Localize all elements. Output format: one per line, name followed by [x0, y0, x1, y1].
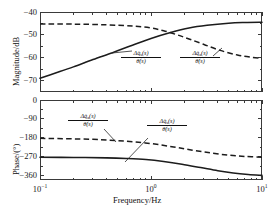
frequency-x-axis-label: Frequency/Hz — [113, 195, 161, 205]
ph-ann2-num-tail: (s) — [168, 117, 175, 124]
ph-ann2-sub: s — [166, 120, 168, 125]
phase-annotation-2: Δq̇s(s) θ̇(s) — [147, 118, 187, 132]
ph-ann1-num-tail: (s) — [89, 112, 96, 119]
bode-plot-figure: Magnitude/dB −40−50−60−70 Δq̇s(s) θ̇(s) … — [0, 0, 272, 209]
ph-ann2-den: θ̇(s) — [147, 126, 187, 133]
phase-annotation-1: Δq̇a(s) θ̇(s) — [68, 113, 108, 127]
phase-solid-curve — [40, 157, 262, 175]
phase-dashed-curve — [40, 138, 262, 157]
ph-ann1-den: θ̇(s) — [68, 121, 108, 128]
phase-curves — [0, 0, 272, 209]
ph-ann1-sub: a — [87, 115, 89, 120]
